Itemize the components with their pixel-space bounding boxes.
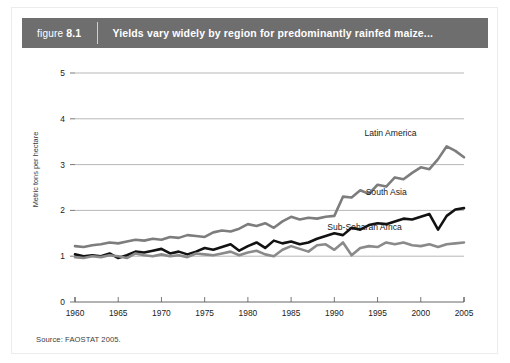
figure-number-value: 8.1: [66, 27, 81, 39]
chart-plot-area: 0123451960196519701975198019851990199520…: [0, 48, 510, 318]
series-group: [75, 146, 464, 258]
x-tick-label: 1995: [368, 308, 387, 318]
header-divider: [97, 22, 98, 44]
series-label-sub-saharan-africa: Sub-Saharan Africa: [327, 222, 402, 232]
x-tick-label: 1965: [109, 308, 128, 318]
figure-number-label: figure 8.1: [22, 27, 81, 39]
x-tick-label: 1960: [66, 308, 85, 318]
y-tick-label: 3: [60, 160, 65, 170]
gridlines-group: [75, 73, 464, 256]
figure-header-band: figure 8.1 Yields vary widely by region …: [22, 18, 488, 48]
y-tick-label: 5: [60, 68, 65, 78]
figure-title: Yields vary widely by region for predomi…: [112, 27, 433, 39]
x-tick-label: 2000: [411, 308, 430, 318]
y-tick-label: 0: [60, 297, 65, 307]
source-note: Source: FAOSTAT 2005.: [36, 335, 121, 344]
x-tick-label: 1970: [152, 308, 171, 318]
y-axis-title: Metric tons per hectare: [31, 132, 40, 208]
x-tick-label: 1975: [195, 308, 214, 318]
y-tick-label: 2: [60, 205, 65, 215]
series-line-south-asia: [75, 208, 464, 258]
y-axis-title-group: Metric tons per hectare: [31, 132, 40, 208]
series-label-latin-america: Latin America: [364, 128, 416, 138]
tick-labels-group: 0123451960196519701975198019851990199520…: [60, 68, 473, 318]
x-tick-label: 1985: [282, 308, 301, 318]
figure-word: figure: [37, 28, 63, 39]
x-tick-label: 1980: [239, 308, 258, 318]
x-tick-label: 1990: [325, 308, 344, 318]
figure-container: figure 8.1 Yields vary widely by region …: [0, 0, 510, 363]
series-label-south-asia: South Asia: [366, 187, 407, 197]
y-tick-label: 1: [60, 251, 65, 261]
line-chart-svg: 0123451960196519701975198019851990199520…: [0, 48, 510, 318]
y-tick-label: 4: [60, 114, 65, 124]
x-tick-label: 2005: [455, 308, 474, 318]
